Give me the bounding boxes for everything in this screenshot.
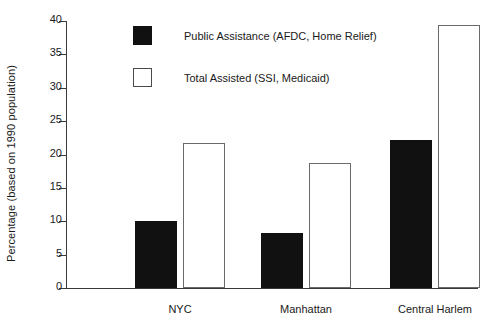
y-tick-label: 25 [40,113,62,125]
legend-label: Public Assistance (AFDC, Home Relief) [184,30,377,42]
plot-area: 0510152025303540 NYCManhattanCentral Har… [66,21,478,288]
legend-label: Total Assisted (SSI, Medicaid) [184,72,330,84]
bar-nyc-series1 [135,221,177,288]
y-axis-line [66,21,67,289]
legend-swatch-solid [133,26,152,45]
y-tick-label: 5 [40,247,62,259]
bar-chart: Percentage (based on 1990 population) 05… [0,0,483,327]
y-tick-label: 15 [40,180,62,192]
x-label-nyc: NYC [168,303,191,315]
y-tick-label: 0 [40,280,62,292]
legend-item-1: Public Assistance (AFDC, Home Relief) [133,26,377,45]
bar-nyc-series2 [183,143,225,288]
bar-central-harlem-series1 [390,140,432,288]
y-tick-label: 35 [40,46,62,58]
x-label-central-harlem: Central Harlem [398,303,472,315]
bar-manhattan-series1 [261,233,303,288]
legend-item-2: Total Assisted (SSI, Medicaid) [133,68,330,87]
x-label-manhattan: Manhattan [280,303,332,315]
y-tick-label: 20 [40,147,62,159]
y-tick-label: 30 [40,80,62,92]
y-tick-label: 10 [40,213,62,225]
y-tick-label: 40 [40,13,62,25]
bar-manhattan-series2 [309,163,351,288]
y-axis-title: Percentage (based on 1990 population) [0,0,22,327]
bar-central-harlem-series2 [438,25,480,288]
legend-swatch-hollow [133,68,152,87]
x-axis-line [66,288,478,289]
